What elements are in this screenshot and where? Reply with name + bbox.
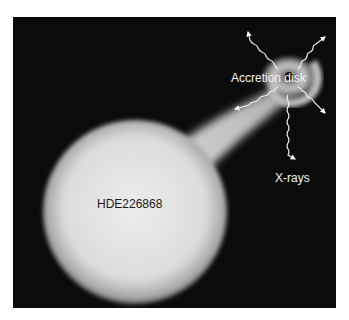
illustration-graphic [13, 17, 336, 308]
star-label: HDE226868 [97, 198, 162, 210]
accretion-disk-label: Accretion disk [231, 72, 306, 84]
binary-system-illustration: Accretion disk X-rays HDE226868 [13, 17, 336, 308]
xrays-label: X-rays [275, 172, 310, 184]
star-hde226868 [43, 120, 227, 304]
